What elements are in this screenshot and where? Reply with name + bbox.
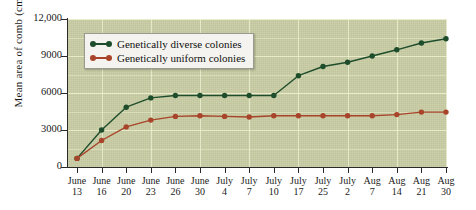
data-point — [148, 95, 153, 100]
data-point — [74, 156, 79, 161]
x-tick-mark — [151, 168, 152, 173]
data-point — [296, 73, 301, 78]
data-point — [124, 105, 129, 110]
data-point — [345, 113, 350, 118]
legend-label-uniform: Genetically uniform colonies — [117, 52, 245, 64]
x-tick-mark — [298, 168, 299, 173]
data-point — [173, 114, 178, 119]
legend-marker-uniform-icon — [90, 53, 112, 63]
x-tick-mark — [249, 168, 250, 173]
legend-item-diverse: Genetically diverse colonies — [90, 37, 245, 51]
x-tick-mark — [77, 168, 78, 173]
legend-item-uniform: Genetically uniform colonies — [90, 51, 245, 65]
data-point — [320, 113, 325, 118]
data-point — [99, 138, 104, 143]
data-point — [419, 109, 424, 114]
x-tick-mark — [225, 168, 226, 173]
data-point — [197, 113, 202, 118]
x-tick-label: Aug30 — [426, 175, 466, 197]
legend-label-diverse: Genetically diverse colonies — [117, 38, 242, 50]
y-tick-mark — [61, 167, 68, 168]
x-tick-label-month: Aug — [426, 175, 466, 186]
y-tick-mark — [61, 56, 68, 57]
data-point — [394, 112, 399, 117]
data-point — [370, 113, 375, 118]
x-tick-mark — [323, 168, 324, 173]
data-point — [370, 53, 375, 58]
x-tick-mark — [126, 168, 127, 173]
data-point — [296, 113, 301, 118]
data-point — [419, 40, 424, 45]
data-point — [148, 117, 153, 122]
data-point — [247, 114, 252, 119]
x-tick-mark — [397, 168, 398, 173]
x-tick-mark — [274, 168, 275, 173]
x-tick-mark — [421, 168, 422, 173]
x-tick-label-day: 30 — [426, 186, 466, 197]
x-tick-mark — [175, 168, 176, 173]
data-point — [124, 124, 129, 129]
x-tick-mark — [348, 168, 349, 173]
legend-marker-diverse-icon — [90, 39, 112, 49]
data-point — [173, 93, 178, 98]
data-point — [443, 109, 448, 114]
data-point — [320, 64, 325, 69]
chart-legend: Genetically diverse colonies Genetically… — [84, 33, 254, 69]
x-tick-mark — [446, 168, 447, 173]
data-point — [443, 36, 448, 41]
y-tick-mark — [61, 93, 68, 94]
data-point — [222, 114, 227, 119]
y-tick-mark — [61, 19, 68, 20]
data-point — [247, 93, 252, 98]
data-point — [345, 60, 350, 65]
data-point — [271, 113, 276, 118]
data-point — [197, 93, 202, 98]
data-point — [99, 127, 104, 132]
x-tick-mark — [372, 168, 373, 173]
data-point — [222, 93, 227, 98]
data-point — [394, 47, 399, 52]
data-point — [271, 93, 276, 98]
y-tick-mark — [61, 130, 68, 131]
chart-figure: Mean area of comb (cm2) 12,0009000600030… — [0, 0, 476, 210]
series-line-uniform — [77, 112, 446, 158]
x-tick-mark — [102, 168, 103, 173]
x-tick-mark — [200, 168, 201, 173]
